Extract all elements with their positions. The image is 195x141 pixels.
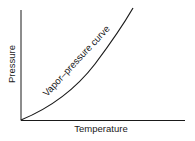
x-axis-label: Temperature — [74, 123, 127, 134]
y-axis-label: Pressure — [6, 45, 17, 83]
curve-label: Vapor–pressure curve — [40, 23, 111, 98]
vapor-pressure-diagram: Vapor–pressure curve Temperature Pressur… — [0, 0, 195, 141]
